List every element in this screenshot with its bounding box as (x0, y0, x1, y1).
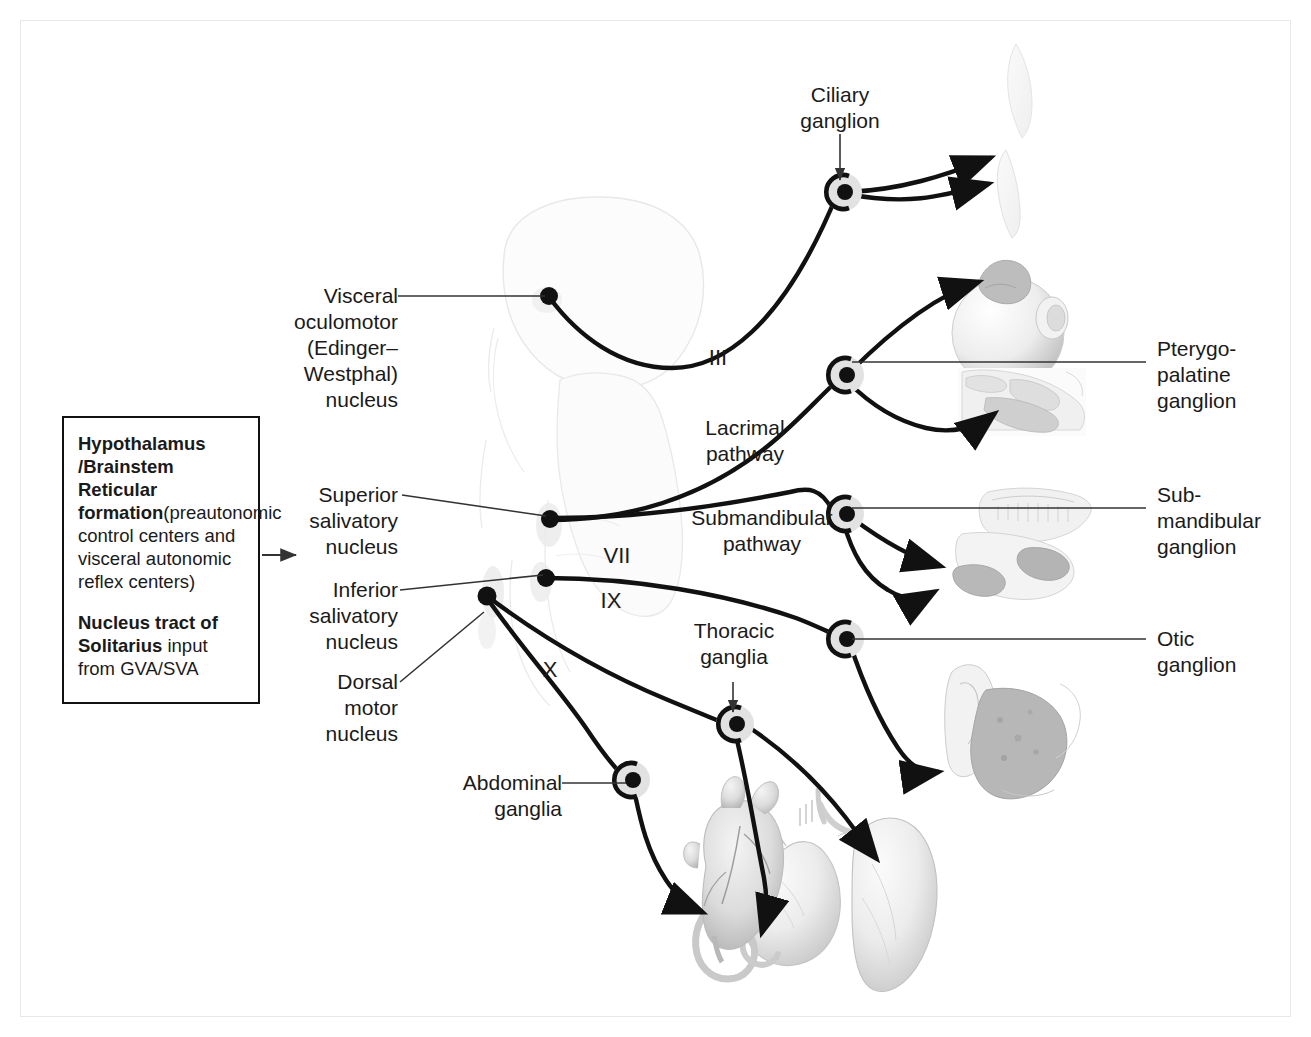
ear-parotid-gland-illustration (945, 665, 1081, 799)
pathway-submandibular-to-gland (852, 518, 940, 566)
label-dorsal-motor-nucleus: Dorsal motor nucleus (230, 669, 398, 747)
label-ciliary-ganglion: Ciliary ganglion (760, 82, 920, 134)
numeral-cn-vii: VII (596, 543, 638, 569)
ganglion-thoracic (716, 705, 754, 743)
figure-canvas: Hypothalamus /Brainstem Reticular format… (0, 0, 1311, 1037)
iris-sphincter-illustration (997, 44, 1032, 238)
leader-inferior-salivatory (400, 575, 543, 590)
label-submandibular-ganglion: Sub- mandibular ganglion (1157, 482, 1307, 560)
label-superior-salivatory-nucleus: Superior salivatory nucleus (230, 482, 398, 560)
info-box-spacer (78, 593, 246, 611)
label-thoracic-ganglia: Thoracic ganglia (654, 618, 814, 670)
pathway-cn10-to-abdominal (487, 598, 628, 780)
hypothalamus-brainstem-info-box: Hypothalamus /Brainstem Reticular format… (62, 416, 260, 704)
label-lacrimal-pathway: Lacrimal pathway (660, 415, 830, 467)
ganglion-abdominal (612, 761, 650, 799)
leader-superior-salivatory (402, 495, 546, 516)
mandible-salivary-glands-illustration (953, 488, 1091, 599)
leader-dorsal-motor (400, 612, 484, 682)
label-abdominal-ganglia: Abdominal ganglia (394, 770, 562, 822)
pathway-otic-to-parotid (850, 644, 938, 772)
node-inferior-salivatory-nucleus (537, 569, 555, 587)
numeral-cn-x: X (534, 657, 566, 683)
label-pterygopalatine-ganglion: Pterygo- palatine ganglion (1157, 336, 1307, 414)
node-superior-salivatory-nucleus (541, 510, 559, 528)
label-otic-ganglion: Otic ganglion (1157, 626, 1307, 678)
numeral-cn-iii: III (700, 345, 736, 371)
ganglion-ciliary (824, 173, 862, 211)
node-dorsal-motor-nucleus (478, 587, 497, 606)
label-visceral-oculomotor-nucleus: Visceral oculomotor (Edinger– Westphal) … (230, 283, 398, 413)
label-submandibular-pathway: Submandibular pathway (662, 505, 862, 557)
numeral-cn-ix: IX (592, 588, 630, 614)
label-inferior-salivatory-nucleus: Inferior salivatory nucleus (230, 577, 398, 655)
